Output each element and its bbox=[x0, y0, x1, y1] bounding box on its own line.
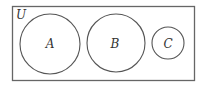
universe-label: U bbox=[16, 8, 27, 22]
set-c-label: C bbox=[163, 37, 172, 51]
set-b-label: B bbox=[110, 37, 120, 51]
venn-diagram: U A B C bbox=[0, 0, 198, 85]
set-a-label: A bbox=[45, 37, 55, 51]
